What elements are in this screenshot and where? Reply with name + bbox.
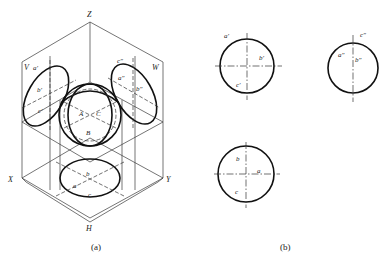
label-w-plane: W [152,63,160,72]
label-x-axis: X [7,175,14,184]
box-top-edges [22,22,163,62]
figure-a-isometric: Z X Y H V W a′ b′ c′ c″ a″ b″ A C B b a … [7,10,172,252]
label-front-a: a′ [224,32,230,40]
label-top-a: a [257,167,261,175]
caption-b: (b) [280,242,291,252]
figure-b-orthographic: a′ b′ c′ c″ a″ b″ b a c (b) [214,31,378,252]
label-z-axis: Z [87,10,92,19]
caption-a: (a) [91,242,101,252]
label-sphere-c: C [96,110,101,118]
label-side-b: b″ [355,56,362,64]
label-h-b: b [86,170,90,178]
label-h-plane: H [85,224,93,233]
label-w-a: a″ [118,74,125,82]
label-side-a: a″ [338,51,345,59]
label-h-a: a [73,182,77,190]
label-front-b: b′ [259,54,265,62]
label-top-b: b [236,155,240,163]
label-sphere-b: B [86,129,91,137]
label-w-c: c″ [117,57,123,65]
h-plane [22,138,163,218]
w-ellipse-centerline-h [108,78,160,108]
label-v-a: a′ [33,64,39,72]
label-top-c: c [235,188,239,196]
label-v-b: b′ [37,86,43,94]
label-h-c: c [88,191,92,199]
label-w-b: b″ [136,85,143,93]
label-sphere-a: A [78,110,84,118]
label-v-plane: V [24,63,30,72]
label-y-axis: Y [166,175,172,184]
label-v-c: c′ [38,107,43,115]
diagram-canvas: Z X Y H V W a′ b′ c′ c″ a″ b″ A C B b a … [0,0,390,263]
label-side-c: c″ [360,31,366,39]
h-plane-thickness [26,182,158,222]
label-front-c: c′ [236,81,241,89]
